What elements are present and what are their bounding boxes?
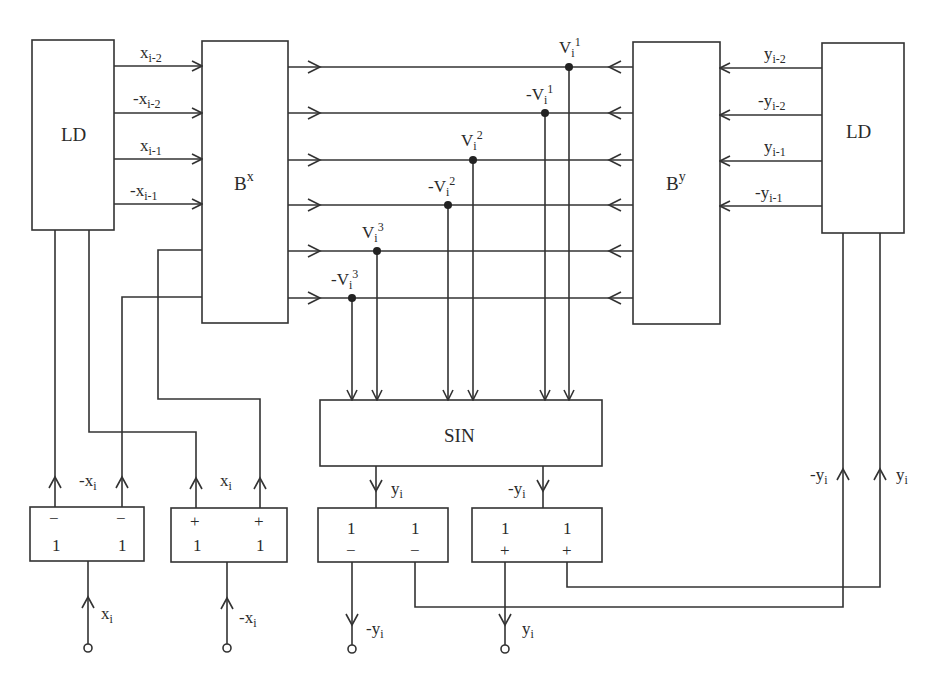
box2-bot-left: 1 bbox=[193, 537, 202, 554]
inverter-box-2 bbox=[171, 508, 287, 562]
wire-feedback-neg-y bbox=[415, 233, 843, 607]
terminal-y-i bbox=[501, 645, 509, 653]
box3-top-left: 1 bbox=[347, 520, 356, 537]
box2-top-left: + bbox=[190, 513, 200, 530]
inverter-box-3 bbox=[318, 508, 448, 562]
label-v1: Vi1 bbox=[559, 36, 581, 59]
box1-top-left: − bbox=[49, 510, 59, 527]
label-neg-y-i-1: -yi-1 bbox=[755, 184, 783, 204]
box1-bot-left: 1 bbox=[52, 537, 61, 554]
wire-ld-left-b bbox=[89, 230, 196, 508]
label-sin-out-left: yi bbox=[391, 480, 403, 500]
box4-bot-right: + bbox=[562, 542, 572, 559]
label-box3-out: -yi bbox=[366, 620, 384, 640]
wire-bx-feed-b bbox=[122, 297, 202, 507]
box2-top-right: + bbox=[254, 513, 264, 530]
sin-label: SIN bbox=[444, 426, 475, 445]
label-x-i-2: xi-2 bbox=[140, 44, 162, 64]
label-x-i-1: xi-1 bbox=[140, 137, 162, 157]
box3-bot-right: − bbox=[410, 542, 420, 559]
ld-left-label: LD bbox=[61, 125, 86, 144]
label-box1-in: xi bbox=[101, 605, 113, 625]
label-box2-in: -xi bbox=[239, 609, 257, 629]
ld-right-label: LD bbox=[846, 122, 871, 141]
box2-bot-right: 1 bbox=[256, 537, 265, 554]
box3-bot-left: − bbox=[346, 542, 356, 559]
wire-bx-feed-a bbox=[158, 250, 260, 508]
inverter-box-1 bbox=[30, 507, 144, 561]
box4-top-left: 1 bbox=[501, 520, 510, 537]
bx-label: Bx bbox=[234, 170, 254, 193]
label-y-i-2: yi-2 bbox=[764, 45, 786, 65]
label-box2-out: xi bbox=[220, 472, 232, 492]
wire-feedback-y bbox=[567, 233, 880, 587]
label-box4-out: yi bbox=[522, 620, 534, 640]
inverter-box-4 bbox=[472, 508, 602, 562]
label-y-i-1: yi-1 bbox=[764, 138, 786, 158]
label-feedback-right: yi bbox=[896, 466, 908, 486]
box3-top-right: 1 bbox=[411, 520, 420, 537]
box1-top-right: − bbox=[116, 510, 126, 527]
label-box1-out: -xi bbox=[79, 472, 97, 492]
by-label: By bbox=[666, 170, 686, 193]
box4-top-right: 1 bbox=[563, 520, 572, 537]
label-v2: Vi2 bbox=[461, 129, 483, 152]
label-sin-out-right: -yi bbox=[508, 480, 526, 500]
box4-bot-left: + bbox=[500, 542, 510, 559]
label-neg-v3: -Vi3 bbox=[331, 268, 358, 291]
terminal-neg-x-i bbox=[223, 644, 231, 652]
terminal-x-i bbox=[84, 644, 92, 652]
terminal-neg-y-i bbox=[348, 645, 356, 653]
label-neg-v2: -Vi2 bbox=[428, 175, 455, 198]
box1-bot-right: 1 bbox=[118, 537, 127, 554]
label-neg-y-i-2: -yi-2 bbox=[758, 92, 786, 112]
label-neg-v1: -Vi1 bbox=[526, 83, 553, 106]
label-neg-x-i-1: -xi-1 bbox=[130, 182, 158, 202]
label-neg-x-i-2: -xi-2 bbox=[133, 90, 161, 110]
label-feedback-left: -yi bbox=[810, 466, 828, 486]
label-v3: Vi3 bbox=[362, 221, 384, 244]
